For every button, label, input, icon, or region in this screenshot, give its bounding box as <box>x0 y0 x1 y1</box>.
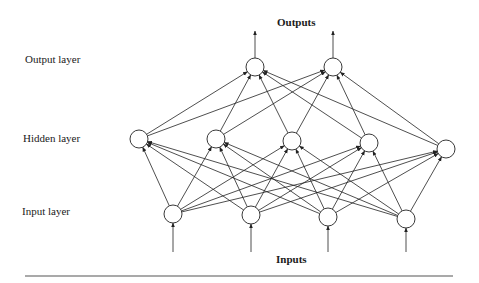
weight-edge <box>373 151 402 211</box>
weight-edge <box>340 72 438 143</box>
output-node <box>324 58 342 76</box>
hidden-node <box>207 130 225 148</box>
weight-edge <box>220 147 247 207</box>
weight-edge <box>260 152 438 212</box>
hidden-node <box>283 132 301 150</box>
hidden-node <box>437 140 455 158</box>
input-node <box>164 205 182 223</box>
weight-edge <box>259 75 288 133</box>
weight-edge <box>220 75 250 131</box>
weight-edge <box>336 153 438 212</box>
weight-edge <box>182 151 437 212</box>
weight-edge <box>224 72 326 135</box>
input-node <box>242 206 260 224</box>
weight-edge <box>262 72 361 138</box>
weight-edge <box>147 72 248 135</box>
weight-edge <box>143 147 170 206</box>
weight-edge <box>147 70 324 136</box>
weight-edge <box>410 157 441 211</box>
input-node <box>319 208 337 226</box>
weight-edge <box>224 142 397 215</box>
weight-edge <box>296 75 328 133</box>
hidden-node <box>360 134 378 152</box>
input-node <box>397 210 415 228</box>
output-node <box>246 58 264 76</box>
weight-edge <box>223 144 320 212</box>
weight-edge <box>337 75 365 135</box>
hidden-node <box>130 130 148 148</box>
neural-network-diagram <box>0 0 479 283</box>
